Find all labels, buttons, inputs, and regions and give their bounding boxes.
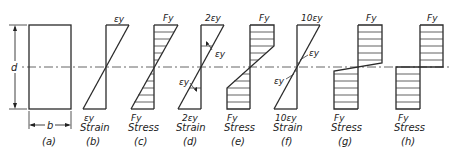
stress-title: Stress [394,122,425,133]
panel-e-stress: Fy Fy Stress (e) [224,13,274,147]
arrow-up-icon [13,25,17,31]
width-label: b [47,120,53,131]
panel-f-strain: 10εy εy εy 10εy Strain (f) [273,13,323,147]
caption-c: (c) [134,136,147,147]
arrow-right-icon [65,123,71,127]
caption-e: (e) [231,136,245,147]
arrow-icon [300,55,308,60]
panel-a-cross-section: d b (a) [8,25,71,147]
inner-yield-label-top: εy [309,48,320,58]
caption-d: (d) [183,136,197,147]
top-strain-label: εy [114,14,125,24]
stress-title: Stress [128,122,159,133]
arrow-icon [286,74,294,79]
caption-h: (h) [401,136,415,147]
stress-title: Stress [331,122,362,133]
strain-stress-diagram: d b (a) εy εy Strain (b) [0,0,457,155]
depth-label: d [11,62,18,73]
strain-title: Strain [80,122,110,133]
top-strain-label: 2εy [205,13,222,23]
stress-title: Stress [224,122,255,133]
top-stress-label: Fy [427,13,438,23]
caption-b: (b) [86,136,100,147]
caption-a: (a) [42,136,56,147]
inner-yield-label-bottom: εy [274,76,285,86]
panel-d-strain: 2εy εy εy 2εy Strain (d) [176,13,226,147]
inner-yield-label-bottom: εy [179,77,190,87]
top-stress-label: Fy [259,13,270,23]
panel-g-stress: Fy Fy Stress (g) [331,13,382,147]
caption-f: (f) [281,136,292,147]
panel-h-stress: Fy Fy Stress (h) [394,13,443,147]
panel-c-stress: Fy Fy Stress (c) [128,13,178,147]
inner-yield-label-top: εy [215,49,226,59]
top-strain-label: 10εy [301,13,323,23]
strain-title: Strain [176,122,206,133]
arrow-down-icon [13,103,17,109]
top-stress-label: Fy [163,13,174,23]
arrow-left-icon [29,123,35,127]
strain-title: Strain [273,122,303,133]
caption-g: (g) [338,136,352,147]
top-stress-label: Fy [366,13,377,23]
panel-b-strain: εy εy Strain (b) [80,14,129,147]
